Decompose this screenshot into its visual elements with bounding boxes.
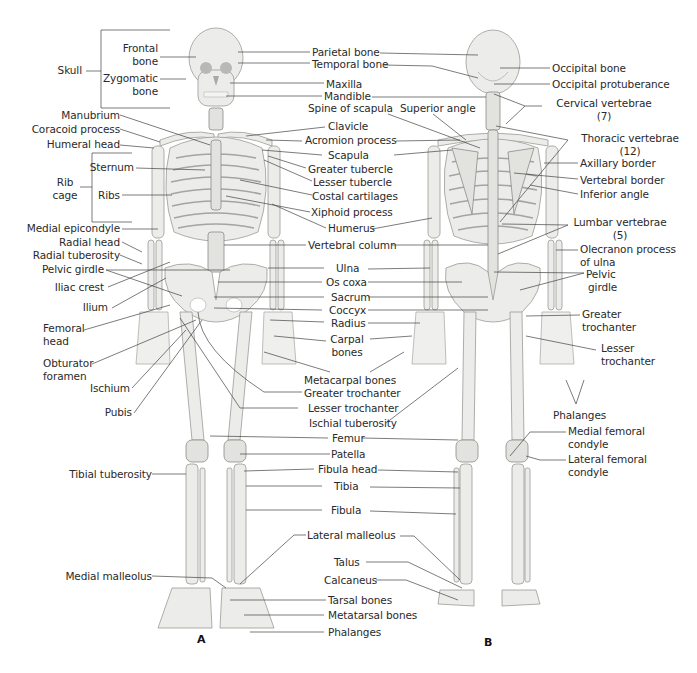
label-lateral-malleolus: Lateral malleolus — [307, 529, 396, 542]
label-tibia: Tibia — [334, 480, 359, 493]
label-occipital-bone: Occipital bone — [552, 62, 626, 75]
label-xiphoid-process: Xiphoid process — [311, 206, 393, 219]
label-skull: Skull — [30, 64, 82, 77]
label-coracoid-process: Coracoid process — [10, 123, 120, 136]
label-sacrum: Sacrum — [331, 291, 370, 304]
label-lateral-femoral-condyle: Lateral femoralcondyle — [568, 453, 647, 478]
label-carpal-bones: Carpalbones — [324, 333, 370, 358]
label-pubis: Pubis — [90, 406, 132, 419]
label-lumbar-vertebrae: Lumbar vertebrae(5) — [568, 216, 672, 241]
label-radial-head: Radial head — [40, 236, 120, 249]
label-fibula: Fibula — [331, 504, 361, 517]
label-lesser-trochanter: Lesser trochanter — [308, 402, 399, 415]
label-acromion-process: Acromion process — [305, 134, 397, 147]
label-calcaneus: Calcaneus — [324, 574, 377, 587]
label-medial-femoral-condyle: Medial femoralcondyle — [568, 425, 645, 450]
label-greater-trochanter-posterior: Greatertrochanter — [582, 308, 636, 333]
label-superior-angle: Superior angle — [400, 102, 476, 115]
label-ulna: Ulna — [336, 262, 359, 275]
panel-label-b: B — [484, 636, 492, 649]
label-metatarsal-bones: Metatarsal bones — [328, 609, 417, 622]
label-vertebral-border: Vertebral border — [580, 174, 664, 187]
label-metacarpal-bones: Metacarpal bones — [304, 374, 396, 387]
label-inferior-angle: Inferior angle — [580, 188, 649, 201]
label-radial-tuberosity: Radial tuberosity — [10, 249, 120, 262]
skeleton-anterior — [136, 28, 296, 628]
label-obturator-foramen: Obturatorforamen — [43, 357, 93, 382]
label-phalanges-posterior: Phalanges — [553, 409, 606, 422]
label-os-coxa: Os coxa — [326, 276, 367, 289]
label-occipital-protuberance: Occipital protuberance — [552, 78, 670, 91]
label-maxilla: Maxilla — [326, 78, 362, 91]
label-spine-of-scapula: Spine of scapula — [308, 102, 393, 115]
label-greater-tubercle: Greater tubercle — [308, 163, 393, 176]
label-thoracic-vertebrae: Thoracic vertebrae(12) — [570, 132, 690, 157]
label-fibula-head: Fibula head — [318, 463, 377, 476]
label-talus: Talus — [334, 556, 360, 569]
label-rib-cage: Ribcage — [50, 176, 80, 201]
label-sternum: Sternum — [80, 161, 134, 174]
label-radius: Radius — [331, 317, 366, 330]
label-medial-malleolus: Medial malleolus — [40, 570, 152, 583]
label-tarsal-bones: Tarsal bones — [328, 594, 392, 607]
label-vertebral-column: Vertebral column — [308, 239, 396, 252]
label-phalanges-anterior: Phalanges — [328, 626, 381, 639]
label-frontal-bone: Frontalbone — [104, 42, 158, 67]
label-manubrium: Manubrium — [40, 109, 120, 122]
label-ribs: Ribs — [80, 189, 120, 202]
label-axillary-border: Axillary border — [580, 157, 656, 170]
label-zygomatic-bone: Zygomaticbone — [96, 72, 158, 97]
label-patella: Patella — [331, 448, 365, 461]
skeleton-diagram: Skull Frontalbone Zygomaticbone Manubriu… — [0, 0, 697, 673]
label-scapula: Scapula — [328, 149, 369, 162]
label-humeral-head: Humeral head — [20, 138, 120, 151]
label-femoral-head: Femoralhead — [43, 322, 85, 347]
label-ischium: Ischium — [80, 382, 130, 395]
label-olecranon-process: Olecranon processof ulna — [580, 243, 676, 268]
label-mandible: Mandible — [324, 90, 371, 103]
label-humerus: Humerus — [328, 222, 375, 235]
label-iliac-crest: Iliac crest — [40, 281, 104, 294]
label-greater-trochanter: Greater trochanter — [304, 387, 401, 400]
label-lesser-tubercle: Lesser tubercle — [313, 176, 392, 189]
label-pelvic-girdle-posterior: Pelvicgirdle — [586, 268, 617, 293]
label-femur: Femur — [332, 432, 365, 445]
label-pelvic-girdle: Pelvic girdle — [20, 263, 104, 276]
panel-label-a: A — [197, 633, 206, 646]
label-costal-cartilages: Costal cartilages — [312, 190, 398, 203]
label-cervical-vertebrae: Cervical vertebrae(7) — [544, 97, 664, 122]
label-lesser-trochanter-posterior: Lessertrochanter — [601, 342, 655, 367]
label-ilium: Ilium — [60, 301, 108, 314]
label-ischial-tuberosity: Ischial tuberosity — [309, 417, 397, 430]
label-parietal-bone: Parietal bone — [312, 46, 380, 59]
label-coccyx: Coccyx — [329, 304, 366, 317]
label-tibial-tuberosity: Tibial tuberosity — [40, 468, 152, 481]
label-clavicle: Clavicle — [328, 120, 368, 133]
label-medial-epicondyle: Medial epicondyle — [0, 222, 120, 235]
label-temporal-bone: Temporal bone — [312, 58, 388, 71]
